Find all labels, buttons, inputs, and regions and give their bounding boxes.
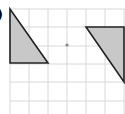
figure-label: ) bbox=[0, 7, 3, 22]
center-point bbox=[65, 43, 68, 46]
grid-diagram: ) bbox=[0, 0, 125, 114]
